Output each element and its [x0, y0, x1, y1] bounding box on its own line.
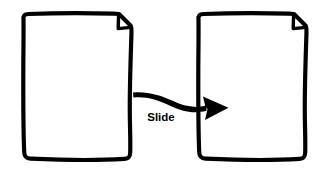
node-source-document[interactable] [23, 13, 131, 160]
diagram-svg: Slide [0, 0, 326, 174]
slide-arrow-icon [133, 92, 207, 112]
node-target-document[interactable] [198, 13, 306, 160]
target-document-page-icon [198, 13, 306, 160]
diagram-canvas: Slide [0, 0, 326, 174]
slide-edge-label: Slide [147, 111, 174, 123]
source-document-page-icon [23, 13, 131, 160]
